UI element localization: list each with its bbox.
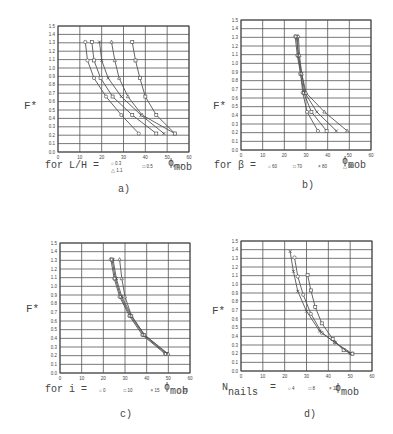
svg-text:1.5: 1.5	[51, 241, 58, 246]
svg-text:30: 30	[303, 153, 309, 158]
legend-prefix-sub: nails	[228, 387, 258, 398]
svg-text:1.1: 1.1	[51, 275, 58, 280]
legend-item: □ 70	[293, 164, 302, 169]
svg-text:30: 30	[304, 374, 310, 379]
svg-text:0.9: 0.9	[232, 291, 239, 296]
svg-text:0.9: 0.9	[49, 74, 56, 79]
svg-text:10: 10	[79, 376, 85, 381]
svg-text:1.2: 1.2	[51, 267, 58, 272]
svg-text:0.8: 0.8	[49, 82, 56, 87]
svg-text:0.5: 0.5	[232, 325, 239, 330]
caption: d)	[304, 409, 316, 420]
svg-text:1.5: 1.5	[49, 24, 56, 29]
svg-text:1.1: 1.1	[49, 57, 56, 62]
svg-text:50: 50	[166, 376, 172, 381]
svg-text:1.5: 1.5	[232, 239, 239, 244]
svg-text:0.1: 0.1	[232, 139, 239, 144]
caption: b)	[302, 180, 314, 191]
svg-text:0.5: 0.5	[232, 104, 239, 109]
svg-text:0.4: 0.4	[49, 116, 56, 121]
x-axis-label: ϕmob	[164, 382, 188, 397]
svg-text:0.3: 0.3	[49, 124, 56, 129]
svg-text:1.3: 1.3	[232, 35, 239, 40]
legend-item: □ 8	[309, 386, 315, 391]
x-axis-label: ϕmob	[342, 156, 366, 171]
y-axis-label: F*	[212, 305, 225, 317]
svg-text:20: 20	[282, 153, 288, 158]
legend-item: ○ 4	[288, 386, 294, 391]
svg-text:1.3: 1.3	[51, 258, 58, 263]
legend-eq: =	[270, 382, 276, 393]
svg-text:0.7: 0.7	[232, 87, 239, 92]
svg-text:40: 40	[326, 374, 332, 379]
legend-item: △ 1.1	[111, 168, 123, 173]
y-axis-label: F*	[24, 100, 37, 112]
plot-d: 0.00.10.20.30.40.50.60.70.80.91.01.11.21…	[200, 217, 393, 434]
svg-text:0.2: 0.2	[232, 130, 239, 135]
svg-text:0.0: 0.0	[49, 150, 56, 155]
svg-text:1.3: 1.3	[49, 40, 56, 45]
svg-text:0.1: 0.1	[51, 362, 58, 367]
svg-text:0.6: 0.6	[232, 96, 239, 101]
legend: for β = ○ 60 □ 70 × 80 △ 90	[214, 160, 353, 171]
legend-item: ○ 0	[99, 388, 105, 393]
svg-text:0.5: 0.5	[49, 108, 56, 113]
legend-prefix: for β =	[214, 160, 256, 171]
plot-c: 0.00.10.20.30.40.50.60.70.80.91.01.11.21…	[0, 217, 200, 434]
svg-text:1.2: 1.2	[49, 49, 56, 54]
svg-text:1.0: 1.0	[232, 61, 239, 66]
legend-item: ○ 0.3	[111, 161, 121, 166]
legend-prefix: for i =	[45, 384, 87, 395]
svg-text:0.7: 0.7	[232, 308, 239, 313]
svg-text:40: 40	[325, 153, 331, 158]
svg-text:1.0: 1.0	[51, 284, 58, 289]
svg-text:0.8: 0.8	[51, 301, 58, 306]
y-axis-label: F*	[213, 100, 226, 112]
svg-text:0.1: 0.1	[49, 141, 56, 146]
legend-item: × 80	[318, 164, 327, 169]
legend-stack: ○ 0.3 △ 1.1	[105, 160, 123, 174]
svg-text:0.0: 0.0	[232, 148, 239, 153]
svg-text:0.4: 0.4	[51, 336, 58, 341]
legend: Nnails = ○ 4 □ 8 × 12	[222, 382, 338, 398]
svg-text:1.4: 1.4	[232, 26, 239, 31]
svg-text:0.4: 0.4	[232, 113, 239, 118]
svg-text:1.4: 1.4	[232, 247, 239, 252]
svg-text:0.9: 0.9	[232, 70, 239, 75]
svg-text:0.8: 0.8	[232, 78, 239, 83]
plot-b: 0.00.10.20.30.40.50.60.70.80.91.01.11.21…	[200, 0, 393, 217]
svg-text:60: 60	[368, 153, 374, 158]
svg-text:0.0: 0.0	[51, 371, 58, 376]
svg-text:0.2: 0.2	[232, 351, 239, 356]
svg-text:1.2: 1.2	[232, 44, 239, 49]
svg-text:0.3: 0.3	[51, 345, 58, 350]
svg-text:40: 40	[144, 376, 150, 381]
svg-text:0.7: 0.7	[51, 310, 58, 315]
svg-text:0.2: 0.2	[49, 133, 56, 138]
svg-text:1.1: 1.1	[232, 52, 239, 57]
svg-text:20: 20	[282, 374, 288, 379]
svg-text:0.6: 0.6	[49, 99, 56, 104]
svg-text:60: 60	[187, 376, 193, 381]
caption: a)	[118, 184, 130, 195]
svg-text:0.7: 0.7	[49, 91, 56, 96]
svg-text:0.1: 0.1	[232, 360, 239, 365]
legend-item: × 15	[151, 388, 160, 393]
svg-text:60: 60	[369, 374, 375, 379]
svg-text:0.8: 0.8	[232, 299, 239, 304]
legend-item: □ 10	[124, 388, 133, 393]
svg-text:50: 50	[348, 374, 354, 379]
x-axis-label: ϕmob	[335, 383, 359, 398]
svg-text:0.3: 0.3	[232, 122, 239, 127]
svg-text:1.0: 1.0	[232, 282, 239, 287]
svg-text:1.0: 1.0	[49, 66, 56, 71]
svg-text:30: 30	[122, 376, 128, 381]
svg-text:1.4: 1.4	[51, 249, 58, 254]
svg-text:1.2: 1.2	[232, 265, 239, 270]
svg-text:0.0: 0.0	[232, 369, 239, 374]
svg-text:1.5: 1.5	[232, 18, 239, 23]
svg-text:0.2: 0.2	[51, 353, 58, 358]
legend-item: ○ 60	[268, 164, 277, 169]
svg-text:0: 0	[59, 376, 62, 381]
svg-text:10: 10	[260, 374, 266, 379]
